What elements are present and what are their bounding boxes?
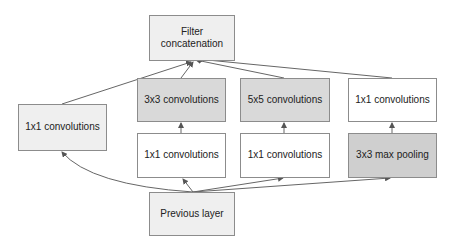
edge-previous-to-reduce-5x5 [193, 178, 283, 192]
node-1x1-pool-projection: 1x1 convolutions [348, 78, 437, 122]
previous-layer-label: Previous layer [160, 208, 223, 221]
edge-previous-to-reduce-3x3 [183, 179, 193, 192]
left-1x1-label: 1x1 convolutions [25, 121, 100, 134]
maxpool-label: 3x3 max pooling [356, 149, 429, 162]
node-previous-layer: Previous layer [149, 192, 235, 236]
node-1x1-reduce-3x3: 1x1 convolutions [137, 133, 226, 178]
edge-previous-to-maxpool [193, 178, 390, 192]
conv5x5-label: 5x5 convolutions [248, 94, 323, 107]
concat-label-line2: concatenation [161, 38, 223, 51]
poolproj-label: 1x1 convolutions [355, 94, 430, 107]
reduce3x3-label: 1x1 convolutions [144, 149, 219, 162]
node-3x3-max-pooling: 3x3 max pooling [348, 133, 437, 178]
concat-label-line1: Filter [161, 26, 223, 39]
node-left-1x1-convolutions: 1x1 convolutions [18, 104, 107, 151]
node-5x5-convolutions: 5x5 convolutions [240, 78, 330, 122]
node-1x1-reduce-5x5: 1x1 convolutions [240, 133, 330, 178]
edge-poolproj-to-concat [197, 59, 392, 78]
conv3x3-label: 3x3 convolutions [144, 94, 219, 107]
reduce5x5-label: 1x1 convolutions [248, 149, 323, 162]
node-filter-concatenation: Filter concatenation [149, 15, 235, 61]
node-3x3-convolutions: 3x3 convolutions [137, 78, 226, 122]
